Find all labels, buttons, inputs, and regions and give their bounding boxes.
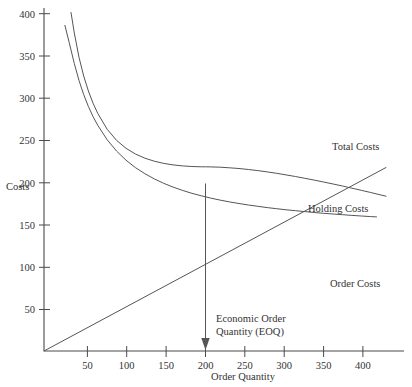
y-axis-title: Costs: [6, 181, 29, 192]
series-label-total-costs: Total Costs: [332, 141, 379, 152]
x-tick-label-300: 300: [276, 360, 292, 371]
eoq-down-arrow-icon: [201, 338, 209, 350]
x-tick-label-250: 250: [237, 360, 253, 371]
holding-costs-line: [44, 168, 386, 352]
x-tick-label-100: 100: [119, 360, 135, 371]
axes: [44, 8, 404, 351]
x-tick-label-350: 350: [316, 360, 332, 371]
total-costs-curve: [71, 13, 386, 197]
y-tick-label-150: 150: [19, 220, 35, 231]
y-tick-label-50: 50: [25, 304, 36, 315]
series-label-order-costs: Order Costs: [330, 278, 380, 289]
y-tick-label-400: 400: [19, 9, 35, 20]
order-costs-curve: [65, 25, 377, 217]
y-tick-label-100: 100: [19, 262, 35, 273]
eoq-label-line-1: Economic Order: [216, 313, 286, 324]
x-axis-tick-labels: 50 100 150 200 250 300 350 400: [82, 360, 371, 371]
eoq-cost-chart: 400 350 300 250 200 150 100 50 50 100 15…: [0, 0, 412, 387]
x-tick-label-50: 50: [82, 360, 93, 371]
x-tick-label-150: 150: [158, 360, 174, 371]
y-tick-label-250: 250: [19, 135, 35, 146]
y-tick-label-300: 300: [19, 93, 35, 104]
chart-canvas: 400 350 300 250 200 150 100 50 50 100 15…: [0, 0, 412, 387]
y-tick-label-350: 350: [19, 51, 35, 62]
x-tick-label-200: 200: [198, 360, 214, 371]
x-tick-label-400: 400: [355, 360, 371, 371]
x-axis-title: Order Quantity: [211, 371, 276, 382]
eoq-label-line-2: Quantity (EOQ): [216, 326, 284, 338]
series-label-holding-costs: Holding Costs: [308, 203, 368, 214]
y-axis-tick-labels: 400 350 300 250 200 150 100 50: [19, 9, 35, 316]
